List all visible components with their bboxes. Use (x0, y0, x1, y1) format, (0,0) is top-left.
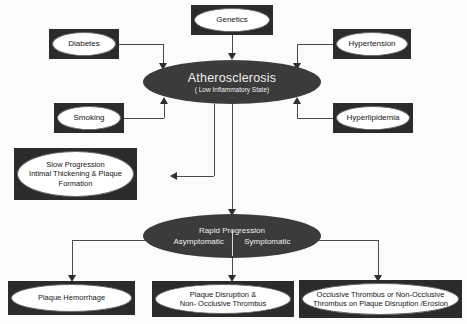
node-hyperlipidemia[interactable]: Hyperlipidemia (333, 103, 413, 133)
node-diabetes[interactable]: Diabetes (49, 29, 119, 59)
slow-progression-line1: Slow Progression (46, 160, 104, 169)
plaque-disruption-line2: Non- Occlusive Thrombus (180, 299, 267, 308)
node-smoking-label: Smoking (57, 106, 121, 130)
connector-hyperlipidemia-v (297, 103, 298, 118)
occlusive-thrombus-line2: Thrombus on Plaque Disruption /Erosion (313, 299, 448, 308)
node-atherosclerosis-sublabel: ( Low Inflammatory State) (195, 86, 269, 93)
connector-smoking-h (124, 118, 164, 119)
connector-hypertension-h (297, 44, 335, 45)
rapid-progression-asymptomatic: Asymptomatic (174, 237, 224, 246)
node-occlusive-thrombus[interactable]: Occlusive Thrombus or Non-Occlusive Thro… (299, 280, 462, 318)
connector-smoking-v (164, 103, 165, 118)
node-atherosclerosis[interactable]: Atherosclerosis ( Low Inflammatory State… (143, 60, 321, 104)
slow-progression-line3: Formation (59, 179, 93, 188)
node-atherosclerosis-label: Atherosclerosis (188, 71, 276, 85)
plaque-disruption-line1: Plaque Disruption & (190, 290, 256, 299)
connector-rapid-v (232, 104, 233, 214)
connector-slow-v (214, 104, 215, 176)
slow-progression-line2: Intimal Thickening & Plaque (29, 169, 122, 178)
rapid-progression-divider (232, 230, 233, 256)
connector-outcome-left-v (72, 240, 73, 280)
arrowhead-genetics (228, 53, 236, 60)
arrowhead-smoking (160, 97, 168, 104)
connector-hyperlipidemia-h (297, 118, 337, 119)
connector-slow-h (176, 176, 214, 177)
node-smoking[interactable]: Smoking (54, 103, 124, 133)
node-plaque-disruption[interactable]: Plaque Disruption & Non- Occlusive Throm… (152, 281, 294, 317)
node-hyperlipidemia-label: Hyperlipidemia (336, 106, 410, 130)
node-hypertension[interactable]: Hypertension (333, 29, 411, 59)
node-plaque-hemorrhage-text: Plaque Hemorrhage (11, 284, 132, 312)
node-diabetes-label: Diabetes (52, 32, 116, 56)
diagram-canvas: Genetics Diabetes Hypertension Smoking H… (0, 0, 467, 324)
connector-outcome-right-v (378, 240, 379, 280)
rapid-progression-symptomatic: Symptomatic (244, 237, 290, 246)
node-occlusive-thrombus-text: Occlusive Thrombus or Non-Occlusive Thro… (302, 283, 459, 315)
node-slow-progression[interactable]: Slow Progression Intimal Thickening & Pl… (14, 148, 137, 200)
node-genetics[interactable]: Genetics (191, 5, 273, 35)
arrowhead-hyperlipidemia (293, 97, 301, 104)
node-slow-progression-text: Slow Progression Intimal Thickening & Pl… (17, 151, 134, 197)
node-hypertension-label: Hypertension (336, 32, 408, 56)
arrowhead-slow-progression (170, 172, 177, 180)
occlusive-thrombus-line1: Occlusive Thrombus or Non-Occlusive (317, 290, 445, 299)
node-genetics-label: Genetics (194, 8, 270, 32)
node-plaque-disruption-text: Plaque Disruption & Non- Occlusive Throm… (155, 284, 291, 314)
connector-diabetes-h (119, 44, 163, 45)
node-plaque-hemorrhage[interactable]: Plaque Hemorrhage (8, 281, 135, 315)
plaque-hemorrhage-line1: Plaque Hemorrhage (38, 293, 105, 302)
